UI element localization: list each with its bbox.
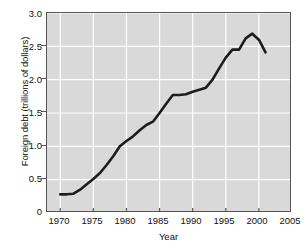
y-tick-label: 0: [2, 206, 42, 217]
x-tick-label: 1990: [171, 215, 211, 226]
x-tick-label: 1985: [138, 215, 178, 226]
x-tick-marks: [60, 208, 291, 212]
x-tick-label: 1980: [105, 215, 145, 226]
x-tick-label: 2005: [270, 215, 308, 226]
horizontal-gridlines: [47, 13, 291, 180]
y-axis-title: Foreign debt (trillions of dollars): [19, 2, 30, 202]
plot-area: [46, 12, 291, 212]
x-tick-label: 1995: [204, 215, 244, 226]
x-tick-label: 2000: [237, 215, 277, 226]
data-line-foreign-debt: [60, 34, 265, 195]
chart-figure: Foreign debt (trillions of dollars) 3.0 …: [0, 0, 308, 248]
chart-canvas: [47, 13, 291, 212]
x-tick-label: 1970: [39, 215, 79, 226]
x-axis-title: Year: [46, 231, 291, 242]
x-tick-label: 1975: [72, 215, 112, 226]
